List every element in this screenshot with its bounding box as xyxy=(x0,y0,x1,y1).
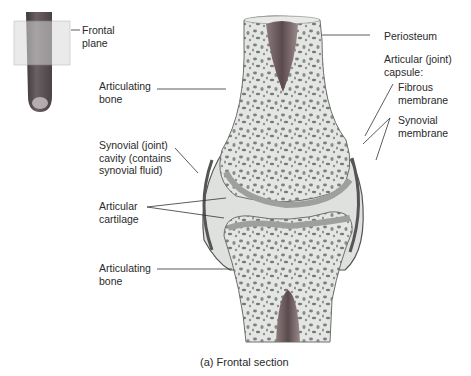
articulating-bone-top-label: Articulating bone xyxy=(99,80,151,105)
articulating-bone-bottom-label: Articulating bone xyxy=(99,262,151,287)
fibrous-membrane-label: Fibrous membrane xyxy=(398,81,448,106)
synovial-membrane-label: Synovial membrane xyxy=(398,114,448,139)
figure-caption: (a) Frontal section xyxy=(200,356,289,368)
frontal-plane-label: Frontal plane xyxy=(82,24,115,49)
periosteum-label: Periosteum xyxy=(384,30,437,43)
articular-cartilage-label: Articular cartilage xyxy=(99,200,139,225)
finger-inset-icon xyxy=(14,12,70,112)
articular-capsule-label: Articular (joint) capsule: xyxy=(384,53,452,78)
synovial-cavity-label: Synovial (joint) cavity (contains synovi… xyxy=(99,139,171,177)
